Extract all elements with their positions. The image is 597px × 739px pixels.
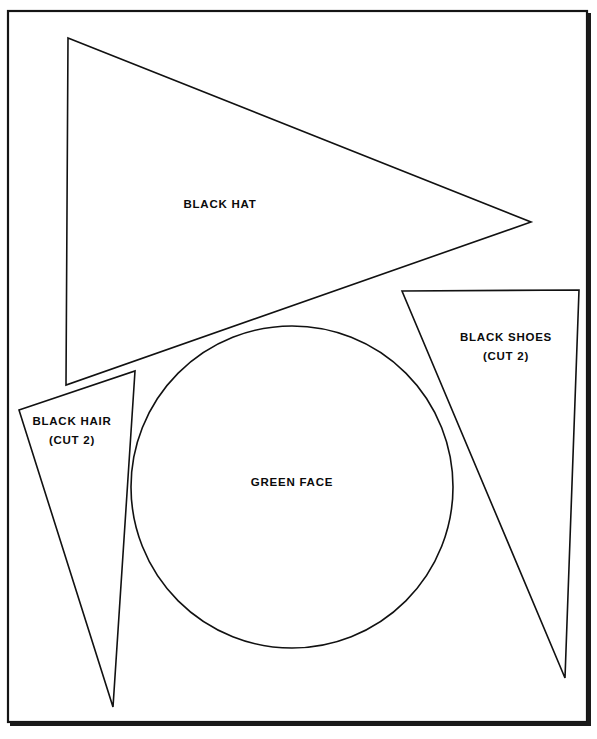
page-border: [8, 11, 587, 722]
piece-label-black-shoes: BLACK SHOES (CUT 2): [436, 328, 576, 366]
pattern-sheet: BLACK HAT BLACK HAIR (CUT 2) BLACK SHOES…: [0, 0, 597, 739]
frame-shadow-right: [587, 13, 591, 726]
piece-label-black-hair: BLACK HAIR (CUT 2): [12, 412, 132, 450]
piece-label-black-hat: BLACK HAT: [140, 195, 300, 214]
frame-shadow-bottom: [10, 722, 589, 726]
pattern-drawing-canvas: [0, 0, 597, 739]
piece-label-green-face: GREEN FACE: [212, 473, 372, 492]
